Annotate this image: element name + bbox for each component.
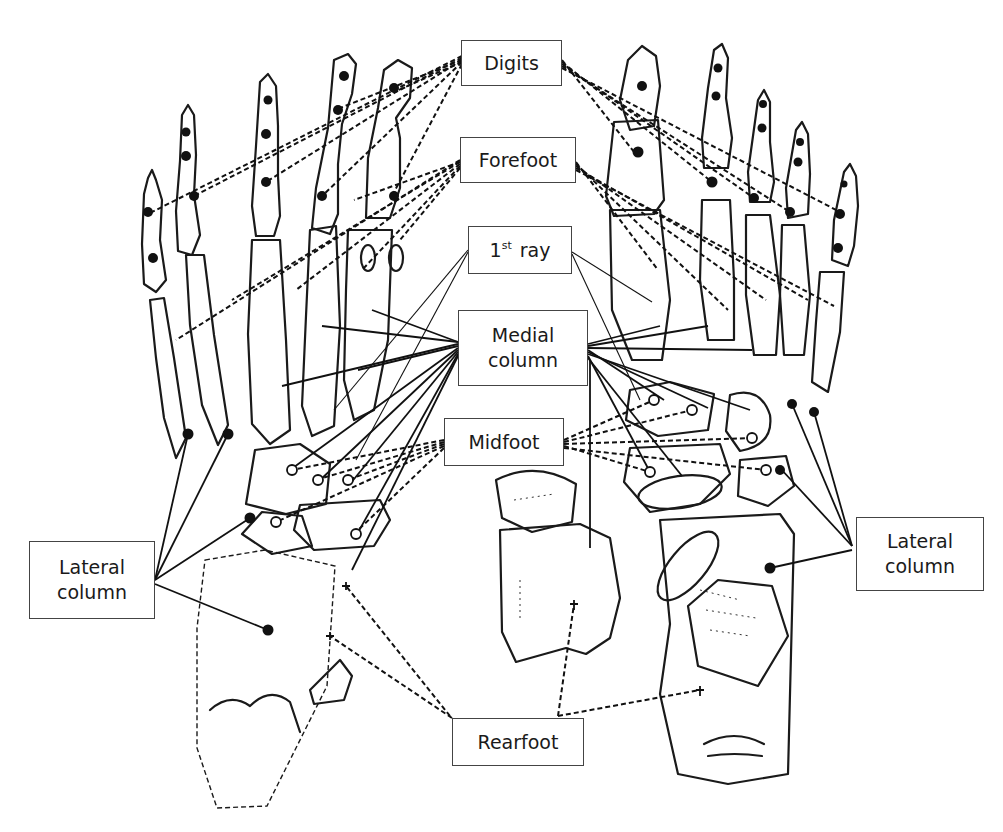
lateral-column-right-line1: Lateral xyxy=(887,529,953,554)
rearfoot-label: Rearfoot xyxy=(452,718,584,766)
medial-column-label-line2: column xyxy=(488,348,558,373)
first-ray-label-text: 1stray xyxy=(490,238,551,263)
midfoot-label-text: Midfoot xyxy=(468,430,539,455)
rearfoot-leaders xyxy=(330,586,700,718)
digits-label-text: Digits xyxy=(484,51,539,76)
medial-column-label: Medial column xyxy=(458,310,588,386)
first-ray-label: 1stray xyxy=(468,226,572,274)
lateral-column-left-line2: column xyxy=(57,580,127,605)
digits-label: Digits xyxy=(461,40,562,86)
lateral-column-right-label: Lateral column xyxy=(856,517,984,591)
foot-segment-diagram: Digits Forefoot 1stray Medial column Mid… xyxy=(0,0,1003,832)
foot-skeleton-illustration xyxy=(0,0,1003,832)
medial-column-label-line1: Medial xyxy=(492,323,554,348)
midfoot-label: Midfoot xyxy=(444,418,564,466)
forefoot-label-text: Forefoot xyxy=(479,148,557,173)
lateral-column-right-line2: column xyxy=(885,554,955,579)
lateral-column-left-line1: Lateral xyxy=(59,555,125,580)
forefoot-label: Forefoot xyxy=(460,137,576,183)
rearfoot-label-text: Rearfoot xyxy=(478,730,559,755)
cross-markers xyxy=(326,582,704,696)
lateral-column-left-label: Lateral column xyxy=(29,541,155,619)
